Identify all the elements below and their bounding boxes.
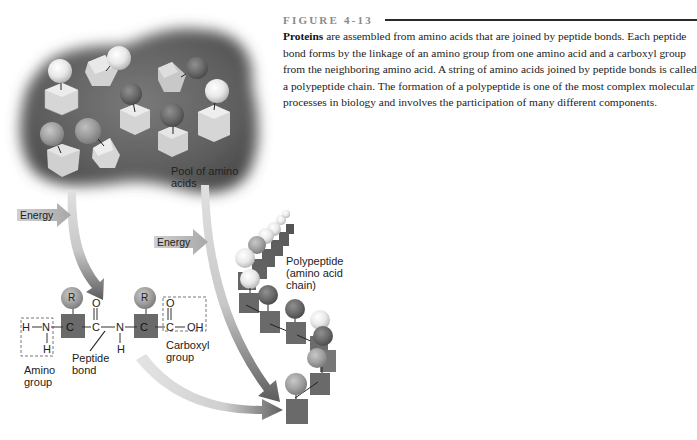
polypeptide-label: Polypeptide (amino acid chain) xyxy=(286,255,344,291)
atom-n2: N xyxy=(116,321,124,333)
atom-c1: C xyxy=(66,321,74,333)
atom-h-left: H xyxy=(22,321,30,333)
peptide-bond-label: Peptide bond xyxy=(72,352,109,376)
atom-c4: C xyxy=(166,321,174,333)
atom-c2: C xyxy=(92,321,100,333)
energy-label-1: Energy xyxy=(20,209,53,221)
polypeptide-chain xyxy=(235,210,336,424)
arrow-peptide-to-polypeptide xyxy=(136,354,283,420)
atom-n1: N xyxy=(42,321,50,333)
atom-oh: OH xyxy=(187,321,204,333)
r-group-2: R xyxy=(141,292,148,303)
energy-label-2: Energy xyxy=(157,236,190,248)
atom-c3: C xyxy=(140,321,148,333)
amino-group-label: Amino group xyxy=(24,364,55,388)
pool-label: Pool of amino acids xyxy=(171,165,238,189)
r-group-1: R xyxy=(68,292,75,303)
atom-o1: O xyxy=(92,297,101,309)
atom-o2: O xyxy=(166,297,175,309)
atom-h-below-n1: H xyxy=(43,343,51,355)
atom-h-below-n2: H xyxy=(117,343,125,355)
arrow-pool-to-peptide xyxy=(68,190,104,300)
carboxyl-group-label: Carboxyl group xyxy=(166,339,209,363)
